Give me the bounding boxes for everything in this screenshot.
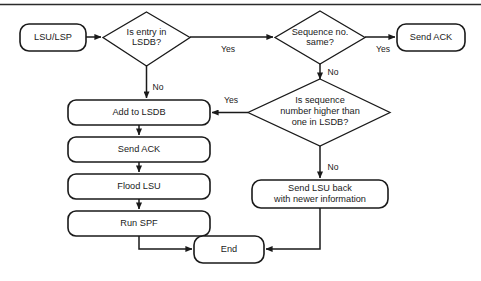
node-is-entry-label-line1: Is entry in bbox=[127, 27, 167, 37]
node-seq-same-label-line1: Sequence no. bbox=[292, 27, 349, 37]
node-seq-higher-label-line2: number higher than bbox=[280, 106, 360, 116]
node-add-lsdb-label: Add to LSDB bbox=[112, 107, 165, 117]
node-run-spf-label: Run SPF bbox=[120, 218, 158, 228]
node-send-lsu-back-label-line1: Send LSU back bbox=[288, 183, 352, 193]
node-seq-higher-label-line3: one in LSDB? bbox=[292, 117, 349, 127]
node-flood-lsu-label: Flood LSU bbox=[117, 181, 160, 191]
node-end[interactable]: End bbox=[194, 236, 264, 263]
node-seq-higher-label-line1: Is sequence bbox=[295, 95, 345, 105]
connector-send-lsu-back-to-end bbox=[266, 207, 320, 249]
node-seq-same-label-line2: same? bbox=[306, 37, 334, 47]
edge-label-is-entry-yes: Yes bbox=[221, 44, 235, 54]
node-is-entry[interactable]: Is entry in LSDB? bbox=[103, 12, 190, 66]
node-send-ack-top-label: Send ACK bbox=[410, 32, 453, 42]
edge-label-seq-same-yes: Yes bbox=[376, 44, 390, 54]
node-send-ack[interactable]: Send ACK bbox=[68, 137, 210, 162]
edge-label-seq-same-no: No bbox=[328, 67, 339, 77]
node-seq-same[interactable]: Sequence no. same? bbox=[275, 11, 365, 64]
node-add-lsdb[interactable]: Add to LSDB bbox=[68, 100, 210, 125]
edge-label-seq-higher-yes: Yes bbox=[224, 95, 238, 105]
flowchart-diagram: Yes No Yes No Yes No LSU/LSP Is entry in… bbox=[0, 0, 481, 281]
edge-label-seq-higher-no: No bbox=[328, 162, 339, 172]
node-run-spf[interactable]: Run SPF bbox=[68, 211, 210, 236]
node-is-entry-label-line2: LSDB? bbox=[132, 37, 161, 47]
node-send-lsu-back-label-line2: with newer information bbox=[273, 194, 366, 204]
node-send-ack-label: Send ACK bbox=[118, 144, 161, 154]
node-start[interactable]: LSU/LSP bbox=[20, 24, 86, 51]
node-send-lsu-back[interactable]: Send LSU back with newer information bbox=[252, 180, 388, 208]
node-flood-lsu[interactable]: Flood LSU bbox=[68, 174, 210, 199]
edge-label-is-entry-no: No bbox=[153, 82, 164, 92]
flowchart-canvas: Yes No Yes No Yes No LSU/LSP Is entry in… bbox=[0, 0, 481, 281]
node-end-label: End bbox=[221, 244, 237, 254]
connector-run-spf-to-end bbox=[139, 235, 192, 249]
node-seq-higher[interactable]: Is sequence number higher than one in LS… bbox=[248, 79, 390, 146]
node-start-label: LSU/LSP bbox=[34, 32, 72, 42]
node-send-ack-top[interactable]: Send ACK bbox=[397, 24, 465, 51]
